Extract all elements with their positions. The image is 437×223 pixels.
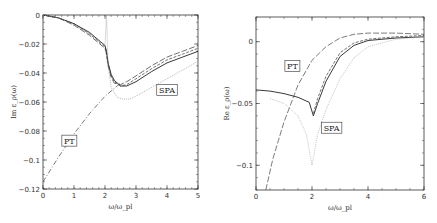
y-tick-label: −0.05 [232,100,253,108]
x-tick-label: 3 [134,192,138,200]
y-axis-label: Im ε_ρ(ω) [10,85,18,119]
annotation-pt: PT [287,62,298,71]
y-tick-label: −0.08 [19,128,40,136]
series-PT [266,33,424,190]
series-PT [43,83,121,182]
x-tick-label: 1 [72,192,76,200]
x-tick-label: 2 [310,193,314,201]
x-tick-label: 2 [103,192,107,200]
x-tick-label: 4 [366,193,371,201]
y-axis-label: Re ε_ρ(ω) [223,86,231,120]
chart-canvas: 0123450−0.02−0.04−0.06−0.08−0.1−0.12ω/ω_… [0,0,437,223]
annotation-spa: SPA [159,86,175,95]
x-tick-label: 0 [41,192,45,200]
y-tick-label: 0 [36,12,40,20]
x-tick-label: 6 [422,193,427,201]
series-SPA [270,37,424,166]
left-panel-im-epsilon: 0123450−0.02−0.04−0.06−0.08−0.1−0.12ω/ω_… [10,12,200,212]
series-dashed-short [43,15,198,86]
right-panel-re-epsilon: 02460−0.05−0.1ω/ω_plRe ε_ρ(ω)PTSPA [223,17,427,212]
y-tick-label: −0.06 [19,99,41,107]
y-tick-label: −0.1 [23,157,40,165]
annotation-pt: PT [64,137,75,146]
series-solid [256,37,424,116]
x-tick-label: 0 [254,193,258,201]
annotation-spa: SPA [324,124,340,133]
x-axis-label: ω/ω_pl [328,204,353,212]
series-dashed-long [43,15,198,85]
x-axis-label: ω/ω_pl [109,203,134,211]
y-tick-label: −0.1 [236,162,253,170]
y-tick-label: 0 [249,38,253,46]
plot-frame [43,15,198,189]
y-tick-label: −0.02 [19,41,40,49]
x-tick-label: 4 [165,192,170,200]
y-tick-label: −0.04 [19,70,41,78]
y-tick-label: −0.12 [19,186,40,194]
x-tick-label: 5 [196,192,200,200]
series-solid [43,15,198,86]
plot-frame [256,17,424,190]
